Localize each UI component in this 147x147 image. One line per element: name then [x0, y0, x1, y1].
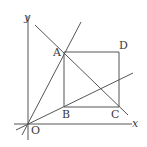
- point-d-label: D: [119, 40, 128, 51]
- line-oa: [22, 22, 81, 135]
- diagram-svg: [0, 0, 147, 147]
- origin-label: O: [31, 125, 40, 136]
- point-c-label: C: [111, 109, 119, 120]
- y-axis-label: y: [24, 12, 30, 23]
- diagram-canvas: y x O A B C D: [0, 0, 147, 147]
- point-a-label: A: [53, 47, 61, 58]
- x-axis-label: x: [132, 118, 138, 129]
- line-ac: [35, 25, 128, 115]
- line-ob: [16, 73, 133, 130]
- point-b-label: B: [62, 109, 70, 120]
